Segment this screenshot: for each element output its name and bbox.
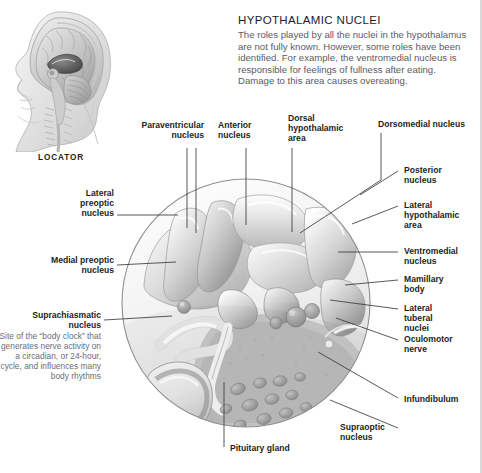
header-description: The roles played by all the nuclei in th… [238, 29, 470, 87]
label-ventromedial-nucleus: Ventromedialnucleus [404, 246, 482, 266]
suprachiasmatic-caption: Site of the “body clock” that generates … [0, 331, 101, 381]
label-pituitary-gland: Pituitary gland [230, 443, 340, 453]
label-paraventricular-nucleus: Paraventricularnucleus [134, 120, 204, 140]
page-title: HYPOTHALAMIC NUCLEI [238, 14, 470, 26]
label-posterior-nucleus: Posteriornucleus [404, 165, 480, 185]
label-infundibulum: Infundibulum [404, 394, 482, 404]
header-block: HYPOTHALAMIC NUCLEI The roles played by … [238, 14, 470, 87]
label-dorsomedial-nucleus: Dorsomedial nucleus [378, 119, 482, 129]
label-oculomotor-nerve: Oculomotornerve [404, 334, 480, 354]
label-mamillary-body: Mamillarybody [404, 274, 474, 294]
label-supraoptic-nucleus: Supraopticnucleus [340, 422, 414, 442]
label-medial-preoptic-nucleus: Medial preopticnucleus [6, 255, 114, 275]
page-root: LOCATOR [0, 0, 482, 473]
locator-illustration [2, 4, 134, 152]
label-dorsal-hypothalamic-area: Dorsalhypothalamicarea [288, 113, 356, 144]
suprachiasmatic-title: Suprachiasmaticnucleus [32, 310, 101, 330]
label-suprachiasmatic-nucleus: Suprachiasmaticnucleus Site of the “body… [0, 310, 101, 381]
hypothalamus-figure [120, 177, 372, 429]
label-lateral-preoptic-nucleus: Lateralpreopticnucleus [44, 188, 114, 219]
locator-head-svg [2, 4, 134, 152]
label-lateral-tuberal-nuclei: Lateraltuberalnuclei [404, 303, 474, 334]
label-anterior-nucleus: Anteriornucleus [218, 120, 276, 140]
hypothalamus-svg [120, 177, 372, 429]
locator-label: LOCATOR [0, 153, 122, 162]
label-lateral-hypothalamic-area: Lateralhypothalamicarea [404, 200, 480, 231]
